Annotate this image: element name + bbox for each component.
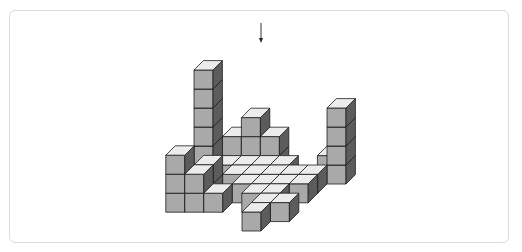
cube-front-face [204, 193, 223, 212]
cube-front-face [222, 137, 241, 156]
cube-stacks [166, 61, 356, 231]
cube-front-face [260, 137, 279, 156]
cube-front-face [242, 212, 261, 231]
view-direction-arrow-icon [259, 23, 263, 43]
cube-front-face [194, 108, 213, 127]
cube-front-face [241, 118, 260, 137]
cube-front-face [327, 165, 346, 184]
cube-front-face [166, 155, 185, 174]
cube-front-face [185, 193, 204, 212]
cube-front-face [327, 127, 346, 146]
cube-front-face [327, 108, 346, 127]
cube-front-face [241, 137, 260, 156]
cube-front-face [327, 146, 346, 165]
cube-front-face [194, 70, 213, 89]
cube-front-face [185, 174, 204, 193]
cube-front-face [194, 127, 213, 146]
cube-diagram [0, 0, 522, 252]
cube-front-face [166, 174, 185, 193]
cube-front-face [166, 193, 185, 212]
cube-front-face [194, 89, 213, 108]
cube-front-face [270, 203, 289, 222]
